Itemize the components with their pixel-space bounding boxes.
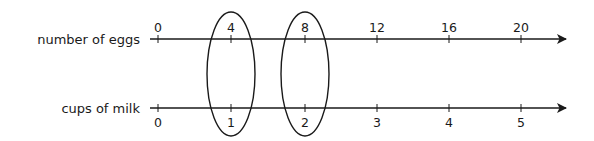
eggs-tick-label: 4: [227, 20, 235, 35]
eggs-tick-label: 8: [301, 20, 309, 35]
eggs-tick-label: 20: [513, 20, 529, 35]
eggs-line-label: number of eggs: [37, 32, 140, 47]
milk-tick-label: 2: [301, 115, 309, 130]
milk-tick-label: 5: [517, 115, 525, 130]
milk-tick-label: 0: [154, 115, 162, 130]
double-number-line-diagram: number of eggs 0 4 8 12 16 20 cups of mi…: [0, 0, 594, 141]
milk-tick-label: 4: [445, 115, 453, 130]
milk-line-label: cups of milk: [61, 101, 140, 116]
milk-tick-label: 3: [373, 115, 381, 130]
eggs-tick-label: 0: [154, 20, 162, 35]
eggs-tick-label: 12: [369, 20, 385, 35]
milk-tick-label: 1: [227, 115, 235, 130]
eggs-tick-label: 16: [441, 20, 457, 35]
